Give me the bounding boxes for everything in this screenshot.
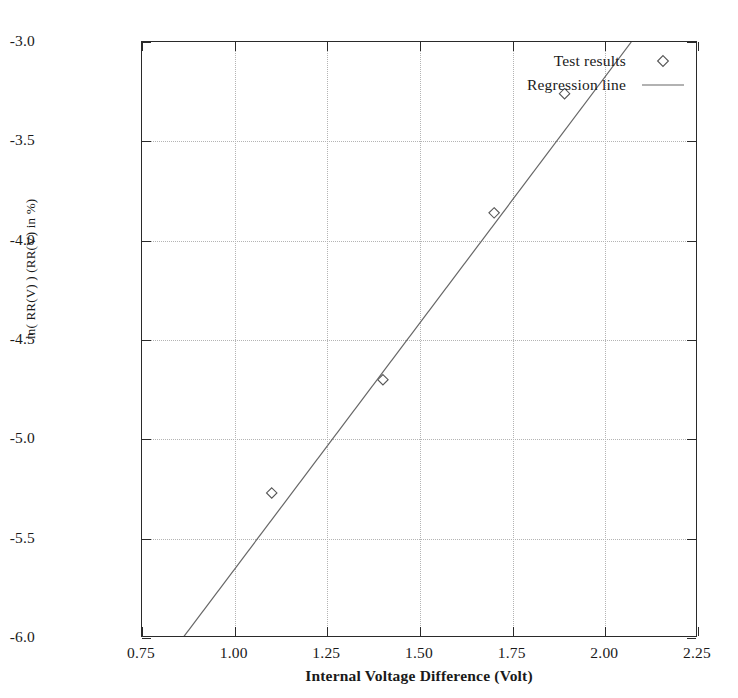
regression-line bbox=[183, 42, 632, 636]
x-tick-label: 1.50 bbox=[379, 645, 459, 661]
data-point-marker bbox=[489, 208, 499, 218]
y-axis-title: ln( RR(V) ) (RR(V) in %) bbox=[23, 199, 39, 339]
plot-area: Test results Regression line bbox=[141, 41, 697, 637]
chart-figure: -3.0-3.5-4.0-4.5-5.0-5.5-6.0 0.751.001.2… bbox=[0, 0, 738, 698]
x-tick-label: 1.75 bbox=[472, 645, 552, 661]
line-sample-icon bbox=[642, 81, 684, 89]
y-tick-label: -3.5 bbox=[0, 132, 35, 148]
y-tick-label: -5.5 bbox=[0, 530, 35, 546]
legend-label-test-results: Test results bbox=[554, 52, 642, 70]
x-tick-label: 1.00 bbox=[194, 645, 274, 661]
x-axis-title: Internal Voltage Difference (Volt) bbox=[141, 667, 697, 685]
y-tick-mark bbox=[687, 638, 696, 639]
legend-item-test-results: Test results bbox=[502, 49, 684, 73]
y-tick-label: -3.0 bbox=[0, 33, 35, 49]
x-tick-mark bbox=[698, 42, 699, 51]
data-layer bbox=[142, 42, 696, 636]
x-tick-mark bbox=[698, 627, 699, 636]
y-tick-label: -5.0 bbox=[0, 430, 35, 446]
x-tick-label: 2.00 bbox=[564, 645, 644, 661]
data-point-marker bbox=[267, 488, 277, 498]
diamond-marker-icon bbox=[642, 54, 684, 68]
chart-legend: Test results Regression line bbox=[502, 49, 684, 97]
x-tick-label: 2.25 bbox=[657, 645, 737, 661]
y-tick-label: -6.0 bbox=[0, 629, 35, 645]
legend-item-regression-line: Regression line bbox=[502, 73, 684, 97]
x-tick-label: 0.75 bbox=[101, 645, 181, 661]
series-svg bbox=[142, 42, 696, 636]
legend-label-regression-line: Regression line bbox=[527, 76, 642, 94]
y-tick-mark bbox=[142, 638, 151, 639]
x-tick-label: 1.25 bbox=[286, 645, 366, 661]
